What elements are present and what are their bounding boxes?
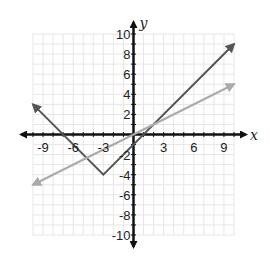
y-tick-label: -10	[112, 228, 131, 243]
y-tick-label: 10	[116, 27, 130, 42]
x-tick-label: -9	[37, 140, 49, 155]
y-tick-label: 2	[123, 107, 130, 122]
x-tick-label: -3	[98, 140, 110, 155]
coordinate-plane: -9-6-3369108642-2-4-6-8-10xy	[0, 0, 270, 267]
y-tick-label: -8	[119, 208, 131, 223]
x-tick-label: 3	[160, 140, 167, 155]
tick-labels: -9-6-3369108642-2-4-6-8-10xy	[37, 15, 258, 243]
y-axis-label: y	[139, 15, 149, 31]
x-tick-label: 9	[220, 140, 227, 155]
y-tick-label: 6	[123, 67, 130, 82]
x-axis-label: x	[250, 127, 258, 143]
x-tick-label: -6	[67, 140, 79, 155]
y-tick-label: -4	[119, 168, 131, 183]
y-tick-label: 4	[123, 87, 130, 102]
y-tick-label: -2	[119, 148, 131, 163]
y-tick-label: -6	[119, 188, 131, 203]
x-tick-label: 6	[190, 140, 197, 155]
y-tick-label: 8	[123, 47, 130, 62]
